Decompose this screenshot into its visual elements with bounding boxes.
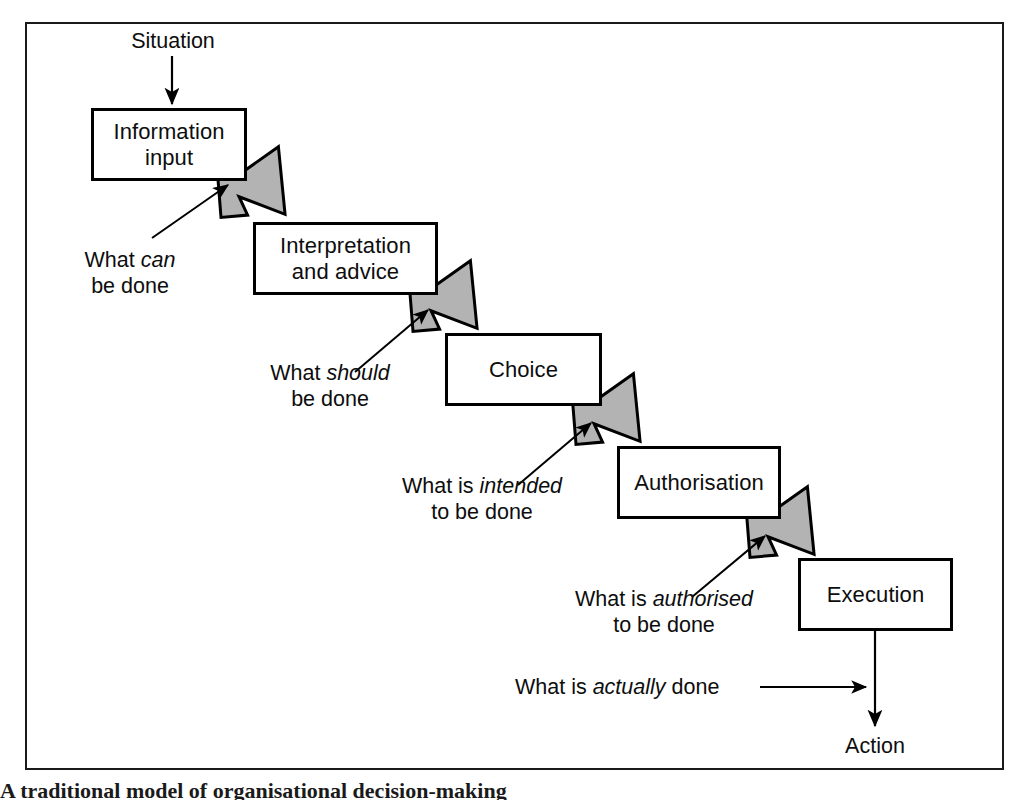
- annotation-line1-pre: What is: [515, 675, 593, 699]
- stage-label-line1: Information: [113, 119, 224, 144]
- annotation-line1-pre: What: [85, 248, 141, 272]
- annotation-line2: be done: [91, 274, 169, 298]
- leader-line-what-can: [152, 185, 228, 238]
- situation-label-text: Situation: [131, 29, 215, 53]
- annotation-what-is-actually-done: What is actually done: [515, 674, 775, 700]
- stage-label-line1: Authorisation: [634, 470, 764, 495]
- stage-label-execution: Execution: [823, 582, 929, 608]
- figure-page: Situation Information input Interpretati…: [0, 0, 1031, 800]
- annotation-line1-pre: What: [270, 361, 326, 385]
- stage-label-line1: Interpretation: [280, 233, 411, 258]
- stage-label-line2: and advice: [292, 259, 399, 284]
- annotation-what-can-be-done: What can be done: [44, 247, 216, 299]
- annotation-line1: What is actually done: [515, 675, 719, 699]
- stage-label-interpretation-and-advice: Interpretation and advice: [276, 233, 415, 285]
- annotation-what-should-be-done: What should be done: [232, 360, 428, 412]
- stage-box-choice[interactable]: Choice: [445, 333, 602, 406]
- annotation-line1-emphasis: can: [141, 248, 176, 272]
- annotation-line1-emphasis: should: [326, 361, 389, 385]
- annotation-line1: What can: [85, 248, 176, 272]
- annotation-what-is-intended-to-be-done: What is intended to be done: [368, 473, 596, 525]
- stage-label-authorisation: Authorisation: [630, 470, 768, 496]
- stage-label-line2: input: [145, 145, 193, 170]
- stage-label-line1: Choice: [489, 357, 558, 382]
- annotation-line1: What is authorised: [575, 587, 753, 611]
- annotation-line2: be done: [291, 387, 369, 411]
- action-label-text: Action: [845, 734, 905, 758]
- annotation-line1: What should: [270, 361, 390, 385]
- action-label: Action: [815, 733, 935, 759]
- stage-box-authorisation[interactable]: Authorisation: [617, 446, 781, 519]
- annotation-line2: to be done: [431, 500, 533, 524]
- annotation-line1-pre: What is: [402, 474, 480, 498]
- annotation-line1-emphasis: actually: [593, 675, 666, 699]
- stage-label-line1: Execution: [827, 582, 925, 607]
- stage-box-information-input[interactable]: Information input: [91, 108, 247, 181]
- stage-label-information-input: Information input: [109, 119, 228, 171]
- stage-box-interpretation-and-advice[interactable]: Interpretation and advice: [253, 222, 438, 295]
- stage-box-execution[interactable]: Execution: [798, 558, 953, 631]
- figure-caption: A traditional model of organisational de…: [0, 778, 1031, 800]
- annotation-line2: to be done: [613, 613, 715, 637]
- annotation-line1-emphasis: intended: [480, 474, 563, 498]
- annotation-line1: What is intended: [402, 474, 562, 498]
- situation-label: Situation: [108, 28, 238, 54]
- annotation-line1-pre: What is: [575, 587, 653, 611]
- annotation-line1-emphasis: authorised: [653, 587, 753, 611]
- stage-label-choice: Choice: [485, 357, 562, 383]
- annotation-line1-post: done: [666, 675, 720, 699]
- annotation-what-is-authorised-to-be-done: What is authorised to be done: [540, 586, 788, 638]
